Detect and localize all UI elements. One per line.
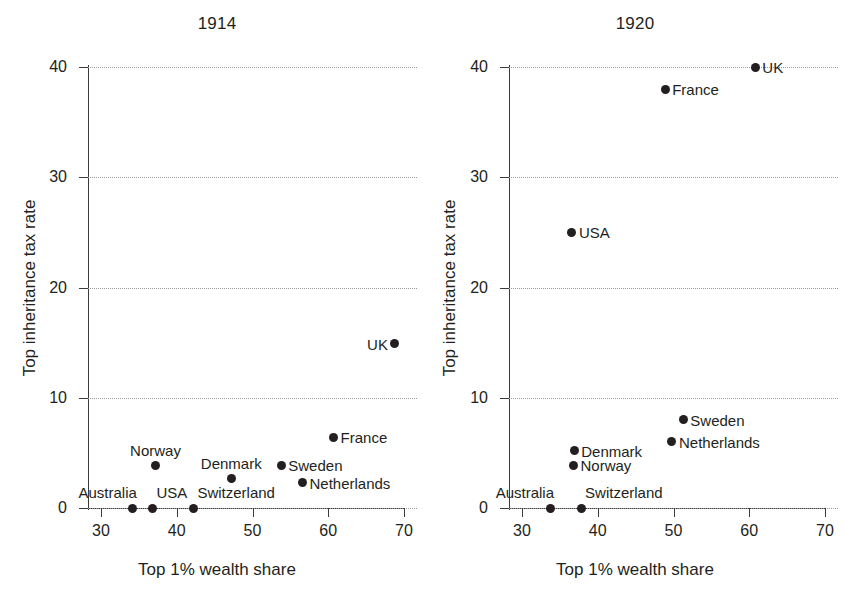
data-point xyxy=(227,474,236,483)
x-axis-tick-label: 40 xyxy=(168,522,186,540)
data-point-label: Sweden xyxy=(690,411,744,428)
x-axis-tick-label: 50 xyxy=(244,522,262,540)
panel-title: 1914 xyxy=(6,14,428,34)
y-axis-tick xyxy=(79,288,88,289)
x-axis-tick xyxy=(598,508,599,517)
data-point-label: Netherlands xyxy=(679,433,760,450)
x-axis-tick xyxy=(825,508,826,517)
x-axis-title: Top 1% wealth share xyxy=(6,560,428,580)
data-point-label: Switzerland xyxy=(197,484,275,501)
data-point-label: Switzerland xyxy=(585,484,663,501)
x-axis-tick xyxy=(749,508,750,517)
x-axis-tick-label: 50 xyxy=(665,522,683,540)
data-point xyxy=(569,461,578,470)
data-point xyxy=(577,504,586,513)
x-axis-tick-label: 60 xyxy=(319,522,337,540)
data-point xyxy=(329,433,338,442)
y-axis-tick xyxy=(79,67,88,68)
data-point xyxy=(151,461,160,470)
chart-panel-1920: 1920 0102030403040506070AustraliaSwitzer… xyxy=(422,0,844,612)
y-axis-tick xyxy=(79,177,88,178)
data-point xyxy=(277,461,286,470)
x-axis-tick-label: 70 xyxy=(395,522,413,540)
y-axis-tick xyxy=(79,508,88,509)
gridline-horizontal xyxy=(509,67,838,68)
plot-area-1914: 0102030403040506070AustraliaUSASwitzerla… xyxy=(101,67,404,508)
data-point xyxy=(128,504,137,513)
data-point-label: Australia xyxy=(496,484,554,501)
gridline-horizontal xyxy=(88,398,417,399)
data-point-label: Netherlands xyxy=(309,474,390,491)
data-point xyxy=(390,339,399,348)
y-axis-tick xyxy=(500,508,509,509)
plot-area-1920: 0102030403040506070AustraliaSwitzerlandN… xyxy=(522,67,825,508)
y-axis-tick xyxy=(500,398,509,399)
x-axis-tick xyxy=(674,508,675,517)
y-axis-title: Top inheritance tax rate xyxy=(440,200,460,377)
data-point-label: USA xyxy=(579,224,610,241)
gridline-horizontal xyxy=(88,67,417,68)
data-point xyxy=(148,504,157,513)
panel-title: 1920 xyxy=(424,14,844,34)
data-point xyxy=(667,437,676,446)
y-axis-title: Top inheritance tax rate xyxy=(20,200,40,377)
gridline-horizontal xyxy=(509,288,838,289)
data-point xyxy=(661,85,670,94)
chart-panel-1914: 1914 0102030403040506070AustraliaUSASwit… xyxy=(0,0,422,612)
data-point xyxy=(570,446,579,455)
data-point xyxy=(679,415,688,424)
data-point-label: USA xyxy=(157,484,188,501)
x-axis-title: Top 1% wealth share xyxy=(424,560,844,580)
data-point-label: Denmark xyxy=(581,442,642,459)
x-axis-tick-label: 60 xyxy=(740,522,758,540)
x-axis-tick xyxy=(177,508,178,517)
y-axis-tick xyxy=(79,398,88,399)
data-point xyxy=(751,63,760,72)
data-point-label: Australia xyxy=(78,484,136,501)
data-point-label: Norway xyxy=(130,442,181,459)
gridline-horizontal xyxy=(88,177,417,178)
x-axis-tick-label: 40 xyxy=(589,522,607,540)
data-point xyxy=(546,504,555,513)
data-point xyxy=(189,504,198,513)
data-point-label: France xyxy=(341,429,388,446)
x-axis-tick-label: 70 xyxy=(816,522,834,540)
x-axis-tick xyxy=(253,508,254,517)
data-point-label: UK xyxy=(367,335,388,352)
scatter-figure: 1914 0102030403040506070AustraliaUSASwit… xyxy=(0,0,844,612)
x-axis-tick xyxy=(404,508,405,517)
data-point-label: Denmark xyxy=(201,455,262,472)
y-axis-tick xyxy=(500,67,509,68)
y-axis-tick xyxy=(500,177,509,178)
x-axis-tick xyxy=(101,508,102,517)
data-point-label: Sweden xyxy=(288,457,342,474)
data-point xyxy=(298,478,307,487)
data-point-label: UK xyxy=(762,59,783,76)
x-axis-tick xyxy=(328,508,329,517)
x-axis-tick xyxy=(522,508,523,517)
y-axis-tick xyxy=(500,288,509,289)
gridline-horizontal xyxy=(88,288,417,289)
data-point xyxy=(567,228,576,237)
x-axis-tick-label: 30 xyxy=(513,522,531,540)
gridline-horizontal xyxy=(509,398,838,399)
gridline-horizontal xyxy=(509,177,838,178)
x-axis-tick-label: 30 xyxy=(92,522,110,540)
data-point-label: France xyxy=(672,81,719,98)
